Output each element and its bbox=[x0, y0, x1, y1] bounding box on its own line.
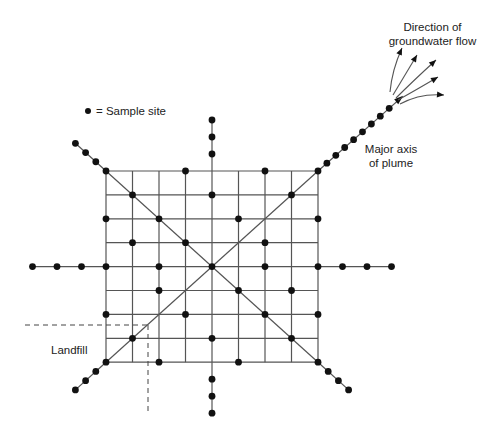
grid-sample-site bbox=[129, 335, 136, 342]
northwest-transect-sample-site bbox=[72, 140, 79, 147]
plume-axis-transect-sample-site bbox=[341, 144, 348, 151]
north-transect-sample-site bbox=[209, 151, 216, 158]
plume-axis-line-2: of plume bbox=[356, 156, 426, 170]
east-transect-sample-site bbox=[339, 263, 346, 270]
flow-arrowhead-2 bbox=[411, 55, 417, 63]
west-transect-sample-site bbox=[29, 263, 36, 270]
grid-sample-site bbox=[156, 263, 163, 270]
southwest-transect-sample-site bbox=[82, 377, 89, 384]
northwest-transect-line bbox=[75, 143, 106, 171]
grid-sample-site bbox=[209, 192, 216, 199]
grid-sample-site bbox=[315, 311, 322, 318]
east-transect-sample-site bbox=[388, 263, 395, 270]
plume-axis-transect-sample-site bbox=[359, 128, 366, 135]
grid-sample-site bbox=[209, 335, 216, 342]
landfill-label: Landfill bbox=[51, 343, 87, 357]
northwest-transect-sample-site bbox=[82, 149, 89, 156]
grid-sample-site bbox=[315, 359, 322, 366]
plume-axis-transect-sample-site bbox=[368, 121, 375, 128]
east-transect-sample-site bbox=[364, 263, 371, 270]
plume-axis-line-1: Major axis bbox=[356, 142, 426, 156]
southeast-transect-sample-site bbox=[335, 377, 342, 384]
southwest-transect-sample-site bbox=[92, 368, 99, 375]
flow-arrowhead-4 bbox=[430, 77, 438, 83]
grid-sample-site bbox=[103, 168, 110, 175]
grid-sample-site bbox=[156, 287, 163, 294]
flow-direction-label: Direction of groundwater flow bbox=[380, 20, 485, 48]
plume-axis-transect-sample-site bbox=[377, 113, 384, 120]
southeast-transect-sample-site bbox=[325, 368, 332, 375]
grid-sample-site bbox=[288, 335, 295, 342]
plume-axis-transect-sample-site bbox=[324, 160, 331, 167]
grid-sample-site bbox=[235, 287, 242, 294]
grid-sample-site bbox=[182, 239, 189, 246]
grid-sample-site bbox=[103, 359, 110, 366]
south-transect-sample-site bbox=[209, 393, 216, 400]
southeast-transect-line bbox=[318, 362, 349, 390]
grid-sample-site bbox=[103, 311, 110, 318]
grid-sample-site bbox=[182, 168, 189, 175]
plume-axis-transect-sample-site bbox=[386, 105, 393, 112]
grid-sample-site bbox=[288, 192, 295, 199]
grid-sample-site bbox=[262, 263, 269, 270]
southwest-transect-line bbox=[75, 362, 106, 390]
grid-sample-site bbox=[129, 239, 136, 246]
groundwater-flow-arrows bbox=[390, 48, 444, 104]
legend-label: = Sample site bbox=[96, 105, 166, 117]
grid-sample-site bbox=[103, 263, 110, 270]
flow-direction-line-1: Direction of bbox=[380, 20, 485, 34]
grid-sample-site bbox=[182, 311, 189, 318]
legend: = Sample site bbox=[85, 104, 166, 118]
grid-sample-site bbox=[156, 215, 163, 222]
south-transect-sample-site bbox=[209, 410, 216, 417]
grid-sample-site bbox=[235, 359, 242, 366]
grid-sample-site bbox=[129, 192, 136, 199]
southeast-transect-sample-site bbox=[345, 387, 352, 394]
grid-sample-site bbox=[315, 215, 322, 222]
grid-sample-site bbox=[262, 168, 269, 175]
grid-sample-site bbox=[262, 239, 269, 246]
grid-sample-site bbox=[262, 311, 269, 318]
grid-sample-site bbox=[235, 215, 242, 222]
north-transect-sample-site bbox=[209, 134, 216, 141]
flow-direction-line-2: groundwater flow bbox=[380, 34, 485, 48]
south-transect-sample-site bbox=[209, 376, 216, 383]
west-transect-sample-site bbox=[54, 263, 61, 270]
grid-sample-site bbox=[209, 263, 216, 270]
west-transect-sample-site bbox=[78, 263, 85, 270]
grid-sample-site bbox=[103, 215, 110, 222]
grid-sample-site bbox=[315, 168, 322, 175]
grid-sample-site bbox=[156, 359, 163, 366]
north-transect-sample-site bbox=[209, 117, 216, 124]
sample-site-legend-icon bbox=[85, 108, 91, 114]
grid-sample-site bbox=[288, 287, 295, 294]
plume-axis-label: Major axis of plume bbox=[356, 142, 426, 170]
sampling-grid-diagram bbox=[0, 0, 485, 439]
southwest-transect-sample-site bbox=[72, 387, 79, 394]
plume-axis-transect-sample-site bbox=[332, 152, 339, 159]
grid-sample-site bbox=[315, 263, 322, 270]
northwest-transect-sample-site bbox=[92, 158, 99, 165]
